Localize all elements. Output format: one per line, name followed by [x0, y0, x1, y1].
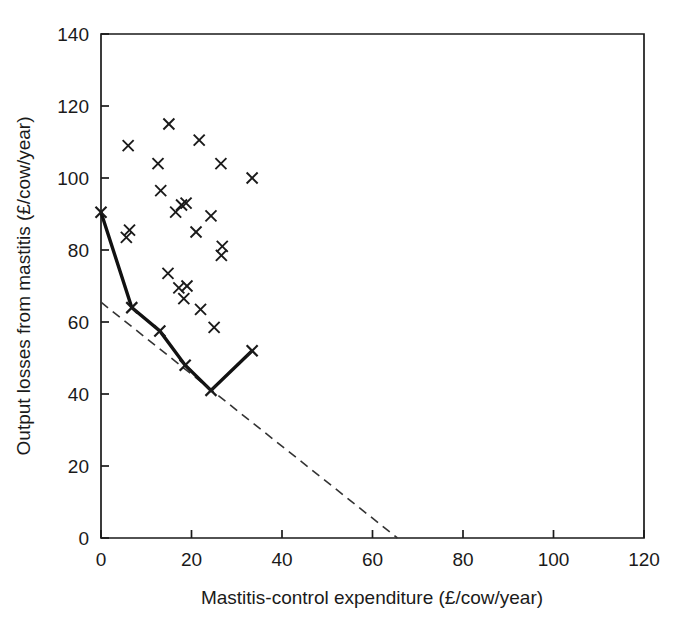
figure-background — [0, 0, 696, 630]
x-tick-label: 120 — [628, 549, 660, 570]
y-tick-label: 40 — [68, 384, 89, 405]
y-tick-label: 60 — [68, 312, 89, 333]
x-tick-label: 80 — [452, 549, 473, 570]
y-tick-label: 140 — [57, 24, 89, 45]
chart-figure: 020406080100120 020406080100120140 Masti… — [0, 0, 696, 630]
y-tick-label: 20 — [68, 456, 89, 477]
x-tick-label: 40 — [271, 549, 292, 570]
x-tick-label: 0 — [96, 549, 107, 570]
x-tick-label: 60 — [362, 549, 383, 570]
y-tick-label: 80 — [68, 240, 89, 261]
x-axis-title: Mastitis-control expenditure (£/cow/year… — [201, 587, 543, 608]
x-tick-label: 100 — [538, 549, 570, 570]
scatter-plot-svg: 020406080100120 020406080100120140 Masti… — [0, 0, 696, 630]
y-tick-label: 100 — [57, 168, 89, 189]
y-tick-label: 120 — [57, 96, 89, 117]
y-axis-title: Output losses from mastitis (£/cow/year) — [13, 117, 34, 456]
y-tick-label: 0 — [78, 528, 89, 549]
x-tick-label: 20 — [181, 549, 202, 570]
